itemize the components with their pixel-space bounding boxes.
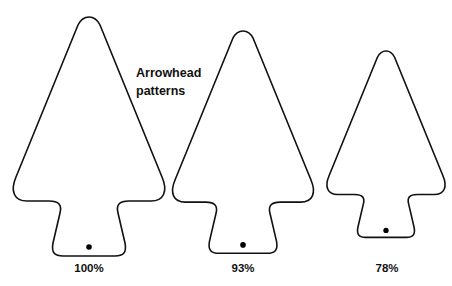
title-line-1: Arrowhead bbox=[136, 64, 201, 82]
scale-label-78: 78% bbox=[375, 262, 398, 274]
arrowhead-pattern-100 bbox=[13, 17, 164, 256]
hole-marker bbox=[240, 242, 246, 248]
hole-marker bbox=[86, 244, 92, 250]
scale-label-100: 100% bbox=[74, 262, 103, 274]
arrowhead-canvas bbox=[0, 0, 452, 286]
arrowhead-outline bbox=[327, 51, 445, 237]
scale-label-93: 93% bbox=[231, 262, 254, 274]
arrowhead-outline bbox=[13, 17, 164, 256]
diagram-title: Arrowhead patterns bbox=[136, 64, 201, 100]
arrowhead-pattern-78 bbox=[327, 51, 445, 237]
title-line-2: patterns bbox=[136, 82, 201, 100]
hole-marker bbox=[383, 228, 388, 233]
